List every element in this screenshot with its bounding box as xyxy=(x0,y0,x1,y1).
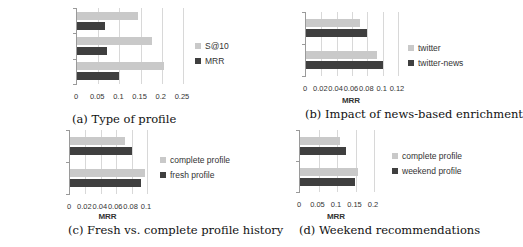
chart-caption: (c) Fresh vs. complete profile history xyxy=(68,223,283,237)
plot-area xyxy=(305,12,398,76)
x-tick-label: 0.15 xyxy=(132,92,147,101)
y-tick xyxy=(302,44,306,45)
gridline xyxy=(374,130,375,192)
legend-item: twitter xyxy=(408,40,463,55)
y-tick xyxy=(66,194,70,195)
legend: complete profileweekend profile xyxy=(392,148,462,178)
bar-topic-based-s-10 xyxy=(77,37,152,45)
legend: complete profilefresh profile xyxy=(160,152,230,182)
legend-swatch-icon xyxy=(195,58,201,64)
legend-label: complete profile xyxy=(170,155,230,165)
gridline xyxy=(356,130,357,192)
chart-caption: (d) Weekend recommendations xyxy=(299,223,480,237)
x-tick-label: 0.06 xyxy=(108,202,123,211)
bar-topic-based-fresh-profile xyxy=(70,147,132,155)
legend-swatch-icon xyxy=(195,43,201,49)
x-tick-label: 0.04 xyxy=(328,84,343,93)
x-tick-label: 0.2 xyxy=(368,200,378,209)
plot-area xyxy=(299,130,374,192)
bar-topic-based-mrr xyxy=(77,47,107,55)
bar-entity-based-s-10 xyxy=(77,62,164,70)
legend-item: complete profile xyxy=(392,148,462,163)
legend-swatch-icon xyxy=(160,172,166,178)
x-tick-label: 0 xyxy=(67,202,71,211)
x-tick-label: 0.08 xyxy=(123,202,138,211)
legend-item: S@10 xyxy=(195,38,229,53)
y-tick xyxy=(66,130,70,131)
x-tick-label: 0.05 xyxy=(90,92,105,101)
legend-swatch-icon xyxy=(160,157,166,163)
x-tick-label: 0.12 xyxy=(390,84,405,93)
bar-topic-based-complete-profile xyxy=(70,137,125,145)
bar-entity-based-weekend-profile xyxy=(300,178,355,186)
legend-label: MRR xyxy=(205,56,224,66)
legend-item: fresh profile xyxy=(160,167,230,182)
y-tick xyxy=(66,162,70,163)
legend: twittertwitter-news xyxy=(408,40,463,70)
legend-swatch-icon xyxy=(408,45,414,51)
x-axis-label: MRR xyxy=(327,212,345,221)
x-axis-label: MRR xyxy=(342,96,360,105)
y-tick xyxy=(73,8,77,9)
legend-swatch-icon xyxy=(392,168,398,174)
bar-entity-based-complete-profile xyxy=(70,169,145,177)
legend-label: fresh profile xyxy=(170,170,214,180)
legend-item: weekend profile xyxy=(392,163,462,178)
y-tick xyxy=(296,161,300,162)
gridline xyxy=(383,12,384,76)
legend-label: S@10 xyxy=(205,41,229,51)
gridline xyxy=(147,130,148,194)
bar-topic-based-twitter xyxy=(306,19,360,27)
y-tick xyxy=(296,192,300,193)
legend-label: weekend profile xyxy=(402,166,462,176)
y-tick xyxy=(302,12,306,13)
x-tick-label: 0.06 xyxy=(344,84,359,93)
legend-item: MRR xyxy=(195,53,229,68)
chart-caption: (b) Impact of news-based enrichment xyxy=(305,107,523,121)
bar-entity-based-twitter-news xyxy=(306,61,383,69)
legend: S@10MRR xyxy=(195,38,229,68)
bar-topic-based-weekend-profile xyxy=(300,147,346,155)
legend-label: twitter-news xyxy=(418,58,463,68)
bar-topic-based-complete-profile xyxy=(300,137,340,145)
x-axis-label: MRR xyxy=(98,212,116,221)
legend-label: twitter xyxy=(418,43,441,53)
x-tick-label: 0.1 xyxy=(331,200,341,209)
gridline xyxy=(162,8,163,84)
x-tick-label: 0.02 xyxy=(313,84,328,93)
x-tick-label: 0.04 xyxy=(92,202,107,211)
x-tick-label: 0.2 xyxy=(156,92,166,101)
x-tick-label: 0 xyxy=(303,84,307,93)
bar-hashtag-based-s-10 xyxy=(77,12,138,20)
x-tick-label: 0 xyxy=(74,92,78,101)
y-tick xyxy=(302,76,306,77)
bar-topic-based-twitter-news xyxy=(306,29,367,37)
y-tick xyxy=(73,84,77,85)
legend-item: complete profile xyxy=(160,152,230,167)
legend-swatch-icon xyxy=(408,60,414,66)
plot-area xyxy=(76,8,183,84)
x-tick-label: 0 xyxy=(297,200,301,209)
x-tick-label: 0.08 xyxy=(359,84,374,93)
x-tick-label: 0.1 xyxy=(376,84,386,93)
bar-entity-based-fresh-profile xyxy=(70,179,141,187)
x-tick-label: 0.1 xyxy=(141,202,151,211)
plot-area xyxy=(69,130,147,194)
y-tick xyxy=(73,33,77,34)
bar-entity-based-mrr xyxy=(77,72,119,80)
y-tick xyxy=(296,130,300,131)
bar-entity-based-complete-profile xyxy=(300,168,358,176)
gridline xyxy=(183,8,184,84)
legend-label: complete profile xyxy=(402,151,462,161)
gridline xyxy=(141,8,142,84)
y-tick xyxy=(73,59,77,60)
bar-entity-based-twitter xyxy=(306,51,377,59)
legend-swatch-icon xyxy=(392,153,398,159)
x-tick-label: 0.1 xyxy=(113,92,123,101)
bar-hashtag-based-mrr xyxy=(77,22,105,30)
x-tick-label: 0.15 xyxy=(347,200,362,209)
x-tick-label: 0.25 xyxy=(175,92,190,101)
chart-caption: (a) Type of profile xyxy=(72,112,176,126)
x-tick-label: 0.02 xyxy=(77,202,92,211)
legend-item: twitter-news xyxy=(408,55,463,70)
